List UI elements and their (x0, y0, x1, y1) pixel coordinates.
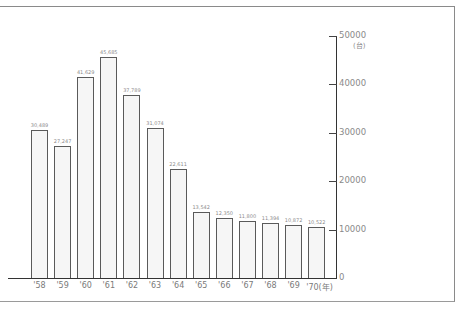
x-tick-label: '64 (166, 281, 190, 290)
x-tick-label: '69 (282, 281, 306, 290)
bar-58 (31, 130, 48, 278)
y-tick (329, 84, 337, 85)
value-label: 41,629 (71, 69, 101, 75)
x-tick-label: '65 (189, 281, 213, 290)
y-tick-label: 20000 (339, 175, 366, 185)
value-label: 22,611 (163, 161, 193, 167)
bar-69 (285, 225, 302, 278)
x-tick-label: '58 (28, 281, 52, 290)
bar-70 (308, 227, 325, 278)
y-tick (329, 36, 337, 37)
value-label: 27,247 (48, 138, 78, 144)
x-tick-label: '70(年) (306, 281, 346, 292)
y-tick-label: 40000 (339, 78, 366, 88)
bar-67 (239, 221, 256, 278)
y-tick (329, 181, 337, 182)
bar-60 (77, 77, 94, 278)
x-tick-label: '67 (235, 281, 259, 290)
value-label: 30,489 (25, 122, 55, 128)
bar-chart: 30,489'5827,247'5941,629'6045,685'6137,7… (0, 0, 469, 315)
bar-66 (216, 218, 233, 278)
x-tick-label: '68 (259, 281, 283, 290)
bar-68 (262, 223, 279, 278)
x-tick-label: '61 (97, 281, 121, 290)
bar-63 (147, 128, 164, 278)
x-tick-label: '66 (212, 281, 236, 290)
x-tick-label: '60 (74, 281, 98, 290)
x-tick-label: '62 (120, 281, 144, 290)
bar-62 (123, 95, 140, 278)
value-label: 10,522 (302, 219, 332, 225)
y-tick (329, 133, 337, 134)
y-tick-label: 50000 (339, 30, 366, 40)
value-label: 45,685 (94, 49, 124, 55)
x-tick-label: '63 (143, 281, 167, 290)
bar-65 (193, 212, 210, 278)
x-tick-label: '59 (51, 281, 75, 290)
y-tick (329, 230, 337, 231)
y-tick-label: 30000 (339, 127, 366, 137)
bar-61 (100, 57, 117, 278)
bar-64 (170, 169, 187, 278)
x-axis-line (8, 278, 336, 279)
value-label: 37,789 (117, 87, 147, 93)
y-axis-line (336, 36, 337, 279)
bar-59 (54, 146, 71, 278)
value-label: 31,074 (140, 120, 170, 126)
y-tick-label: 10000 (339, 224, 366, 234)
y-unit-label: (台) (353, 40, 365, 50)
y-tick-label: 0 (339, 272, 344, 282)
